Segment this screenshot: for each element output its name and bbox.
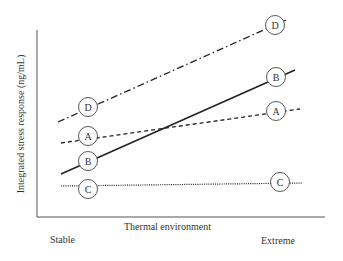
svg-text:A: A <box>84 131 92 142</box>
x-tick-extreme: Extreme <box>261 235 295 246</box>
svg-text:A: A <box>272 106 280 117</box>
marker-b-extreme: B <box>267 68 286 87</box>
y-axis-label: Integrated stress response (ng/mL) <box>15 55 26 194</box>
svg-text:B: B <box>85 156 92 167</box>
marker-a-stable: A <box>79 127 98 146</box>
marker-c-stable: C <box>79 180 98 199</box>
svg-text:D: D <box>271 20 278 31</box>
x-tick-stable: Stable <box>50 234 75 245</box>
svg-text:C: C <box>85 184 92 195</box>
marker-a-extreme: A <box>267 102 286 121</box>
marker-d-extreme: D <box>266 16 285 35</box>
marker-d-stable: D <box>79 98 98 117</box>
marker-b-stable: B <box>79 152 98 171</box>
marker-c-extreme: C <box>271 173 290 192</box>
svg-text:D: D <box>84 102 91 113</box>
x-axis-label: Thermal environment <box>124 221 211 232</box>
svg-text:B: B <box>273 72 280 83</box>
svg-text:C: C <box>277 177 284 188</box>
